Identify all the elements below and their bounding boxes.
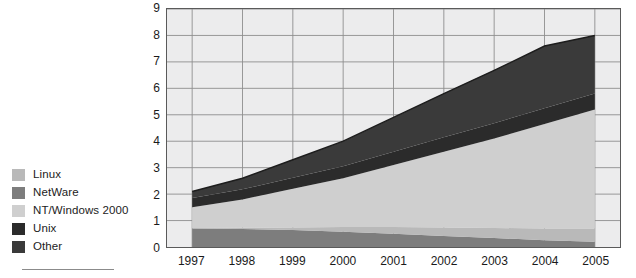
legend-swatch-netware — [12, 187, 25, 199]
legend-label: NetWare — [33, 186, 79, 199]
x-axis-tick-label: 2005 — [582, 255, 609, 267]
y-axis-tick-label: 0 — [153, 242, 160, 254]
y-axis-tick-label: 6 — [153, 82, 160, 94]
legend-item: Unix — [12, 220, 152, 237]
x-axis-tick-label: 1997 — [178, 255, 205, 267]
legend-item: Linux — [12, 166, 152, 183]
legend-label: Unix — [33, 222, 56, 235]
legend-label: NT/Windows 2000 — [33, 204, 128, 217]
legend-swatch-linux — [12, 169, 25, 181]
x-axis-tick-label: 1999 — [279, 255, 306, 267]
legend-label: Linux — [33, 168, 61, 181]
x-axis-tick-label: 2001 — [380, 255, 407, 267]
x-axis-tick-label: 2004 — [532, 255, 559, 267]
y-axis-tick-label: 9 — [153, 2, 160, 14]
y-axis-tick-label: 2 — [153, 189, 160, 201]
y-axis-tick-label: 1 — [153, 215, 160, 227]
y-axis-tick-label: 4 — [153, 135, 160, 147]
y-axis-tick-label: 7 — [153, 55, 160, 67]
y-axis-title-wrapper: Shipments (in millions) — [162, 0, 176, 8]
x-axis-tick-label: 2003 — [481, 255, 508, 267]
legend-item: NetWare — [12, 184, 152, 201]
plot-area — [166, 8, 621, 248]
legend-divider — [22, 269, 114, 270]
legend-label: Other — [33, 240, 62, 253]
y-axis-tick-label: 8 — [153, 29, 160, 41]
y-axis-tick-label: 5 — [153, 109, 160, 121]
legend-item: Other — [12, 238, 152, 255]
y-axis-tick-label: 3 — [153, 162, 160, 174]
legend-swatch-nt-windows-2000 — [12, 205, 25, 217]
legend-swatch-unix — [12, 223, 25, 235]
x-axis-tick-label: 2002 — [431, 255, 458, 267]
x-axis-tick-label: 2000 — [330, 255, 357, 267]
x-axis-tick-label: 1998 — [228, 255, 255, 267]
legend-item: NT/Windows 2000 — [12, 202, 152, 219]
chart-legend: Linux NetWare NT/Windows 2000 Unix Other — [12, 166, 152, 256]
plot-svg — [167, 9, 620, 247]
stacked-area-chart: Shipments (in millions) 0123456789 19971… — [166, 8, 621, 248]
legend-swatch-other — [12, 241, 25, 253]
